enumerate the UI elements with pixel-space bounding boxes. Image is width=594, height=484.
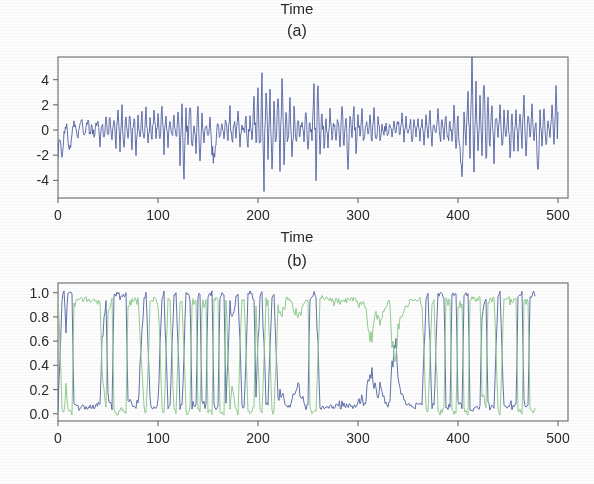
svg-text:0: 0 — [54, 430, 62, 446]
svg-text:-2: -2 — [37, 147, 50, 163]
svg-text:0.0: 0.0 — [30, 406, 50, 422]
svg-text:-4: -4 — [37, 172, 50, 188]
svg-text:4: 4 — [41, 72, 49, 88]
panel-a: (a) 0100200300400500-4-2024 Time — [0, 0, 594, 250]
svg-text:0: 0 — [54, 207, 62, 223]
panel-b-xlabel: Time — [0, 0, 594, 17]
svg-text:300: 300 — [346, 207, 370, 223]
panel-b: (b) 01002003004005000.00.20.40.60.81.0 — [0, 250, 594, 484]
svg-text:300: 300 — [346, 430, 370, 446]
svg-text:100: 100 — [146, 207, 170, 223]
svg-text:500: 500 — [546, 430, 570, 446]
panel-a-plot: 0100200300400500-4-2024 — [0, 0, 594, 250]
svg-text:500: 500 — [546, 207, 570, 223]
svg-text:1.0: 1.0 — [30, 285, 50, 301]
svg-text:400: 400 — [446, 430, 470, 446]
panel-b-plot: 01002003004005000.00.20.40.60.81.0 — [0, 250, 594, 484]
svg-text:0.4: 0.4 — [30, 357, 50, 373]
svg-text:0: 0 — [41, 122, 49, 138]
svg-text:400: 400 — [446, 207, 470, 223]
svg-text:100: 100 — [146, 430, 170, 446]
svg-text:0.8: 0.8 — [30, 309, 50, 325]
svg-text:200: 200 — [246, 207, 270, 223]
figure-container: (a) 0100200300400500-4-2024 Time (b) 010… — [0, 0, 594, 484]
svg-text:0.6: 0.6 — [30, 333, 50, 349]
svg-text:200: 200 — [246, 430, 270, 446]
svg-text:0.2: 0.2 — [30, 382, 50, 398]
panel-a-xlabel: Time — [0, 228, 594, 245]
svg-text:2: 2 — [41, 97, 49, 113]
